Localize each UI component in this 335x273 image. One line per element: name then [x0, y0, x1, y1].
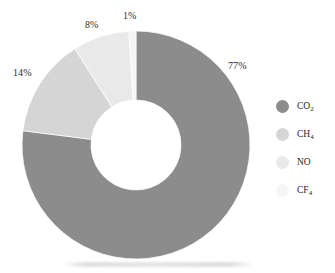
- legend-label-co2: CO2: [297, 101, 314, 111]
- donut-slice-group: [22, 31, 250, 259]
- donut-svg: [0, 0, 272, 273]
- legend-label-ch4: CH4: [297, 129, 314, 139]
- legend-label-no: NO: [297, 157, 311, 167]
- legend-swatch-no-icon: [276, 156, 289, 169]
- slice-label-no: 8%: [85, 19, 99, 30]
- slice-label-cf4: 1%: [123, 10, 137, 21]
- slice-label-co2: 77%: [228, 60, 247, 71]
- slice-label-ch4: 14%: [13, 67, 32, 78]
- donut-chart-figure: 77% 14% 8% 1% CO2 CH4 NO CF4: [0, 0, 335, 273]
- legend-label-cf4: CF4: [297, 185, 312, 195]
- donut-plot-area: 77% 14% 8% 1%: [0, 0, 272, 273]
- page-artifact: [63, 262, 255, 267]
- legend-swatch-cf4-icon: [276, 184, 289, 197]
- legend-item-co2[interactable]: CO2: [276, 92, 335, 120]
- legend-item-ch4[interactable]: CH4: [276, 120, 335, 148]
- chart-legend: CO2 CH4 NO CF4: [276, 92, 335, 204]
- legend-swatch-co2-icon: [276, 100, 289, 113]
- legend-item-cf4[interactable]: CF4: [276, 176, 335, 204]
- legend-swatch-ch4-icon: [276, 128, 289, 141]
- legend-item-no[interactable]: NO: [276, 148, 335, 176]
